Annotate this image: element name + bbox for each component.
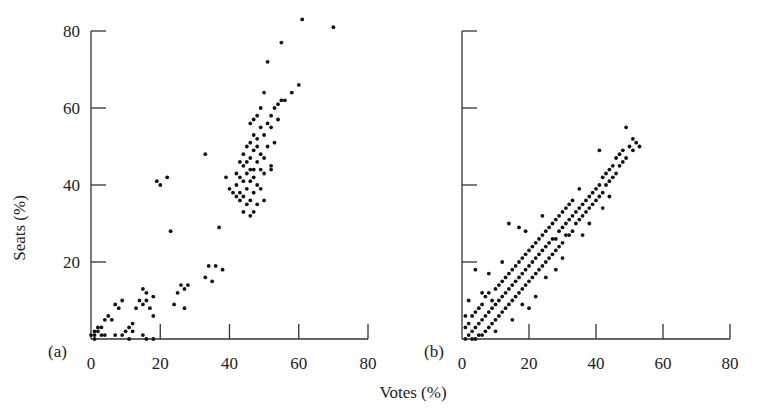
data-point (100, 326, 104, 330)
data-point (544, 276, 548, 280)
data-point (601, 191, 605, 195)
data-point (259, 168, 263, 172)
data-point (608, 195, 612, 199)
data-point (255, 160, 259, 164)
data-point (561, 256, 565, 260)
data-point (269, 114, 273, 118)
data-point (480, 291, 484, 295)
y-axis-label: Seats (%) (10, 195, 29, 261)
data-point (255, 202, 259, 206)
scatter-points (89, 18, 335, 341)
data-point (628, 145, 632, 149)
data-point (631, 148, 635, 152)
data-point (510, 283, 514, 287)
data-point (127, 337, 131, 341)
data-point (581, 202, 585, 206)
data-point (262, 172, 266, 176)
data-point (557, 229, 561, 233)
data-point (494, 287, 498, 291)
data-point (577, 187, 581, 191)
data-point (634, 141, 638, 145)
data-point (577, 206, 581, 210)
data-point (269, 125, 273, 129)
data-point (507, 272, 511, 276)
data-point (584, 210, 588, 214)
data-point (561, 210, 565, 214)
data-point (510, 299, 514, 303)
data-point (601, 175, 605, 179)
data-point (591, 202, 595, 206)
data-point (494, 329, 498, 333)
data-point (172, 303, 176, 307)
data-point (235, 183, 239, 187)
data-point (141, 303, 145, 307)
data-point (531, 276, 535, 280)
data-point (242, 210, 246, 214)
data-point (145, 291, 149, 295)
data-point (520, 303, 524, 307)
data-point (259, 187, 263, 191)
data-point (537, 252, 541, 256)
data-point (124, 329, 128, 333)
data-point (524, 283, 528, 287)
data-point (507, 222, 511, 226)
data-point (245, 160, 249, 164)
data-point (120, 299, 124, 303)
data-point (477, 322, 481, 326)
data-point (480, 318, 484, 322)
data-point (537, 268, 541, 272)
data-point (614, 156, 618, 160)
data-point (464, 314, 468, 318)
x-tick-label: 40 (221, 354, 238, 373)
data-point (228, 187, 232, 191)
data-point (510, 318, 514, 322)
data-point (117, 306, 121, 310)
data-point (248, 168, 252, 172)
data-point (262, 133, 266, 137)
data-point (517, 291, 521, 295)
data-point (214, 264, 218, 268)
data-point (614, 172, 618, 176)
data-point (252, 191, 256, 195)
data-point (577, 218, 581, 222)
data-point (252, 133, 256, 137)
scatter-figure: 20406080020406080(a) 020406080(b) Seats … (0, 0, 768, 420)
data-point (255, 145, 259, 149)
data-point (477, 306, 481, 310)
data-point (638, 145, 642, 149)
data-point (524, 252, 528, 256)
data-point (567, 233, 571, 237)
x-tick-label: 20 (152, 354, 169, 373)
data-point (290, 91, 294, 95)
data-point (238, 191, 242, 195)
data-point (541, 233, 545, 237)
data-point (276, 118, 280, 122)
data-point (210, 279, 214, 283)
data-point (524, 268, 528, 272)
data-point (93, 337, 97, 341)
data-point (176, 291, 180, 295)
data-point (624, 125, 628, 129)
data-point (242, 179, 246, 183)
data-point (474, 326, 478, 330)
axes (91, 31, 368, 339)
data-point (235, 172, 239, 176)
data-point (534, 241, 538, 245)
data-point (238, 160, 242, 164)
data-point (145, 337, 149, 341)
x-tick-label: 60 (655, 354, 672, 373)
data-point (259, 106, 263, 110)
x-tick-label: 80 (722, 354, 739, 373)
data-point (541, 264, 545, 268)
data-point (96, 326, 100, 330)
data-point (183, 306, 187, 310)
data-point (248, 141, 252, 145)
data-point (497, 314, 501, 318)
data-point (557, 245, 561, 249)
data-point (554, 268, 558, 272)
data-point (480, 303, 484, 307)
data-point (280, 41, 284, 45)
data-point (574, 210, 578, 214)
data-point (547, 256, 551, 260)
data-point (500, 295, 504, 299)
